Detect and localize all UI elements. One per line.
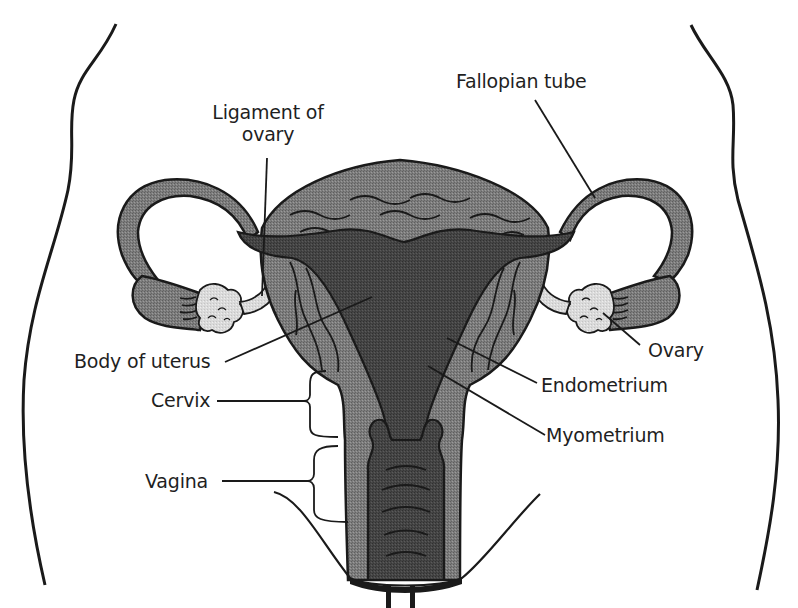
- anatomy-diagram: [0, 0, 798, 608]
- label-ligament-of-ovary: Ligament of ovary: [208, 101, 328, 145]
- vaginal-opening-right: [410, 586, 415, 608]
- left-body-contour: [23, 24, 116, 585]
- label-fallopian-tube: Fallopian tube: [456, 70, 587, 92]
- label-ligament-line2: ovary: [208, 123, 328, 145]
- label-myometrium: Myometrium: [546, 424, 665, 446]
- label-endometrium: Endometrium: [541, 374, 668, 396]
- leader-fallopian-tube: [535, 100, 595, 198]
- label-ovary: Ovary: [648, 339, 704, 361]
- label-ligament-line1: Ligament of: [208, 101, 328, 123]
- label-cervix: Cervix: [151, 389, 210, 411]
- vagina-brace: [308, 446, 348, 522]
- uterus: [238, 160, 574, 608]
- label-vagina: Vagina: [145, 470, 208, 492]
- vaginal-opening-left: [386, 586, 391, 608]
- left-ovary: [196, 284, 243, 333]
- right-body-contour: [691, 25, 778, 590]
- label-body-of-uterus: Body of uterus: [74, 350, 211, 372]
- cervix-canal: [368, 420, 445, 580]
- right-ovary: [567, 284, 614, 333]
